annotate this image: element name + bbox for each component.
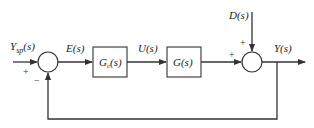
disturbance-label: D(s) xyxy=(228,9,249,22)
left-junction-plus-sign: + xyxy=(23,66,29,77)
controller-block-label: Gc(s) xyxy=(99,56,122,70)
left-junction-minus-sign: − xyxy=(34,75,40,86)
right-summing-junction xyxy=(242,52,262,72)
error-label: E(s) xyxy=(65,42,85,55)
left-summing-junction xyxy=(38,52,58,72)
process-block-label: G(s) xyxy=(173,56,193,69)
right-junction-plus-sign-top: + xyxy=(240,37,246,48)
block-diagram: Ysp(s) + − E(s) Gc(s) U(s) G(s) D(s) + +… xyxy=(0,0,314,128)
output-label: Y(s) xyxy=(274,42,292,55)
right-junction-plus-sign-left: + xyxy=(229,49,235,60)
control-signal-label: U(s) xyxy=(138,42,158,55)
setpoint-label: Ysp(s) xyxy=(10,40,35,55)
feedback-path xyxy=(48,62,277,119)
